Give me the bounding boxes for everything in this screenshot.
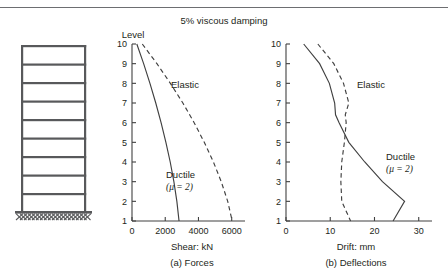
y-tick-label: 5 — [122, 138, 127, 148]
forces-label-ductile: Ductile — [166, 169, 195, 180]
forces-curve-ductile — [137, 44, 179, 221]
y-tick-label: 9 — [122, 59, 127, 69]
deflections-label-ductile: Ductile — [386, 151, 415, 162]
y-tick-label: 1 — [122, 216, 127, 226]
y-tick-label: 6 — [276, 118, 281, 128]
frame-ground-line — [15, 211, 92, 214]
deflections-label-ductile-mu: (μ = 2) — [386, 164, 413, 175]
y-tick-label: 10 — [117, 39, 127, 49]
y-tick-label: 6 — [122, 118, 127, 128]
forces-curve-elastic — [142, 44, 232, 221]
frame-roof-beam — [21, 45, 86, 47]
forces-y-ticks — [132, 44, 136, 221]
forces-y-tick-labels: 12345678910 — [117, 39, 127, 226]
forces-caption: (a) Forces — [170, 257, 214, 268]
frame-right-column — [84, 45, 86, 212]
x-tick-label: 6000 — [222, 226, 242, 236]
y-tick-label: 2 — [122, 197, 127, 207]
y-tick-label: 8 — [122, 79, 127, 89]
frame-floor-beams — [21, 64, 86, 196]
frame-left-column — [21, 45, 23, 212]
forces-x-axis-label: Shear: kN — [171, 241, 213, 252]
x-tick-label: 20 — [369, 226, 379, 236]
forces-x-tick-labels: 0200040006000 — [129, 226, 241, 236]
frame-foundation-hatch — [16, 214, 91, 220]
x-tick-label: 0 — [283, 226, 288, 236]
x-tick-label: 0 — [129, 226, 134, 236]
chart-forces: 12345678910 0200040006000 Level Elastic … — [117, 29, 245, 268]
x-tick-label: 30 — [414, 226, 424, 236]
y-tick-label: 10 — [271, 39, 281, 49]
y-tick-label: 9 — [276, 59, 281, 69]
y-tick-label: 8 — [276, 79, 281, 89]
ten-storey-frame-diagram — [15, 45, 92, 220]
y-tick-label: 3 — [122, 177, 127, 187]
y-tick-label: 2 — [276, 197, 281, 207]
deflections-y-tick-labels: 12345678910 — [271, 39, 281, 226]
y-tick-label: 4 — [122, 157, 127, 167]
deflections-x-ticks — [286, 217, 419, 221]
forces-y-axis-label: Level — [122, 29, 145, 40]
chart-deflections: 12345678910 0102030 Elastic Ductile (μ =… — [271, 39, 432, 268]
deflections-y-ticks — [286, 44, 290, 221]
y-tick-label: 7 — [276, 98, 281, 108]
x-tick-label: 2000 — [155, 226, 175, 236]
y-tick-label: 5 — [276, 138, 281, 148]
figure-root: 5% viscous damping — [0, 0, 448, 280]
deflections-label-elastic: Elastic — [357, 79, 385, 90]
y-tick-label: 7 — [122, 98, 127, 108]
forces-label-ductile-mu: (μ = 2) — [166, 182, 193, 193]
y-tick-label: 1 — [276, 216, 281, 226]
forces-x-ticks — [132, 217, 232, 221]
x-tick-label: 4000 — [188, 226, 208, 236]
deflections-curve-ductile — [304, 44, 405, 221]
deflections-caption: (b) Deflections — [325, 257, 386, 268]
forces-label-elastic: Elastic — [171, 79, 199, 90]
x-tick-label: 10 — [325, 226, 335, 236]
deflections-x-tick-labels: 0102030 — [283, 226, 423, 236]
y-tick-label: 3 — [276, 177, 281, 187]
y-tick-label: 4 — [276, 157, 281, 167]
deflections-x-axis-label: Drift: mm — [337, 241, 376, 252]
figure-svg: 12345678910 0200040006000 Level Elastic … — [0, 0, 448, 280]
